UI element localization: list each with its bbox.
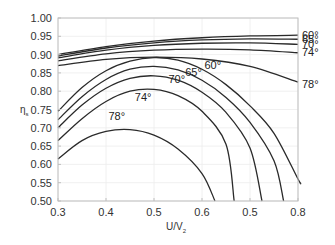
series-line-78-lower: [58, 129, 215, 201]
y-tick-label: 0.80: [31, 85, 52, 97]
x-tick-label: 0.8: [290, 206, 305, 218]
y-axis-label: ηs: [20, 104, 29, 117]
curve-label: 60°: [204, 59, 221, 71]
x-tick-label: 0.4: [98, 206, 113, 218]
x-tick-label: 0.6: [194, 206, 209, 218]
curve-label: 74°: [135, 91, 152, 103]
x-axis-label-subscript: 2: [183, 228, 187, 234]
x-axis-label: U/V2: [166, 221, 187, 234]
y-tick-label: 0.95: [31, 30, 52, 42]
x-tick-label: 0.3: [50, 206, 65, 218]
x-axis-label-main: U/V: [166, 221, 183, 232]
y-axis-label-subscript: s: [26, 111, 29, 117]
curve-label: 70°: [168, 73, 185, 85]
series-line-65-upper: [58, 39, 298, 56]
y-tick-label: 0.50: [31, 195, 52, 207]
x-tick-label: 0.5: [242, 206, 257, 218]
y-tick-label: 0.75: [31, 104, 52, 116]
curve-label: 74°: [302, 46, 319, 58]
y-tick-label: 0.55: [31, 177, 52, 189]
efficiency-chart: 0.30.40.50.60.50.8 0.500.550.600.650.700…: [0, 0, 335, 245]
y-tick-label: 0.85: [31, 67, 52, 79]
curves: [58, 35, 301, 201]
curve-label: 78°: [302, 78, 319, 90]
x-tick-label: 0.5: [146, 206, 161, 218]
y-tick-label: 0.65: [31, 140, 52, 152]
y-tick-labels: 0.500.550.600.650.700.750.800.850.900.95…: [31, 12, 52, 207]
curve-label: 65°: [185, 66, 202, 78]
y-tick-label: 0.60: [31, 158, 52, 170]
y-tick-label: 0.70: [31, 122, 52, 134]
curve-label: 78°: [108, 110, 125, 122]
x-tick-labels: 0.30.40.50.60.50.8: [50, 206, 305, 218]
y-tick-label: 1.00: [31, 12, 52, 24]
y-tick-label: 0.90: [31, 49, 52, 61]
